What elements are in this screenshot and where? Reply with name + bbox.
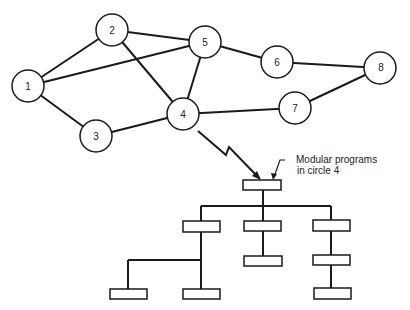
node-label: 5 [202, 37, 208, 48]
module-right-box [313, 220, 350, 231]
annotation-line-2: in circle 4 [297, 165, 340, 176]
node-label: 4 [180, 109, 186, 120]
zigzag-arrow-icon [198, 131, 261, 180]
hierarchy-connectors [128, 190, 331, 289]
module-middle-a-box [244, 256, 282, 266]
node-5: 5 [189, 26, 221, 58]
node-3: 3 [80, 120, 112, 152]
edge-1-5 [28, 42, 205, 86]
node-8: 8 [364, 52, 396, 84]
module-left-box [183, 221, 220, 232]
node-label: 2 [109, 25, 115, 36]
annotation-leader-arrow-icon [271, 160, 285, 180]
edge-4-7 [183, 108, 295, 114]
node-label: 3 [93, 131, 99, 142]
node-6: 6 [261, 46, 293, 78]
module-middle-box [244, 221, 281, 231]
module-left-a-box [110, 289, 147, 299]
annotation-line-1: Modular programs [296, 154, 377, 165]
node-1: 1 [12, 70, 44, 102]
module-right-a-1-box [314, 288, 351, 299]
node-7: 7 [279, 92, 311, 124]
node-2: 2 [96, 14, 128, 46]
node-4: 4 [167, 98, 199, 130]
module-root-box [243, 180, 281, 190]
network-diagram: 1 2 3 4 5 6 7 8 [0, 0, 410, 310]
network-nodes: 1 2 3 4 5 6 7 8 [12, 14, 396, 152]
node-label: 1 [25, 81, 31, 92]
node-label: 7 [292, 103, 298, 114]
node-label: 6 [274, 57, 280, 68]
node-label: 8 [378, 62, 384, 73]
module-right-a-box [313, 255, 350, 265]
hierarchy-modules [110, 180, 351, 299]
module-left-b-box [183, 289, 220, 299]
